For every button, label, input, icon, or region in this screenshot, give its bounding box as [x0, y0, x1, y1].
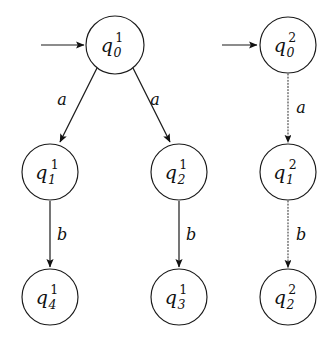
automata-figure: q1^1 --> a q2^1 --> a q4^1 --> b q3^1 --… [0, 0, 330, 337]
state-base: q [36, 286, 48, 308]
edge-label-b: b [296, 225, 306, 244]
state-superscript: 1 [50, 282, 58, 297]
transition-q0-2-to-q1-2: a [288, 74, 306, 142]
state-label: q02 [274, 30, 297, 60]
state-label: q41 [36, 282, 59, 312]
state-subscript: 4 [47, 297, 56, 312]
state-superscript: 1 [51, 157, 59, 172]
state-subscript: 1 [286, 172, 294, 187]
state-label: q11 [35, 157, 59, 187]
state-label: q01 [101, 30, 124, 60]
state-superscript: 2 [288, 282, 296, 297]
transition-q1-2-to-q2-2: b [288, 201, 306, 267]
state-base: q [165, 286, 177, 308]
state-superscript: 2 [289, 157, 297, 172]
state-base: q [35, 161, 47, 183]
edge-label-a: a [296, 98, 306, 117]
state-subscript: 2 [285, 297, 294, 312]
state-superscript: 1 [179, 157, 187, 172]
state-q1-1[interactable]: q11 [22, 144, 78, 200]
state-subscript: 0 [286, 45, 294, 60]
edge-label-b: b [57, 225, 67, 244]
state-superscript: 1 [115, 30, 123, 45]
state-label: q12 [273, 157, 297, 187]
state-base: q [165, 161, 177, 183]
transition-q0-1-to-q2-1: a [133, 68, 170, 142]
state-q4-1[interactable]: q41 [22, 269, 78, 325]
automaton-1: q1^1 --> a q2^1 --> a q4^1 --> b q3^1 --… [22, 16, 207, 325]
state-q1-2[interactable]: q12 [260, 144, 316, 200]
automaton-2: q1^2 (dotted) --> a q2^2 (dotted) --> b … [222, 17, 316, 325]
automata-canvas: q1^1 --> a q2^1 --> a q4^1 --> b q3^1 --… [0, 0, 330, 337]
transition-q1-1-to-q4-1: b [50, 201, 67, 267]
transition-q0-1-to-q1-1: a [57, 68, 97, 142]
state-superscript: 2 [288, 30, 296, 45]
state-subscript: 1 [48, 172, 56, 187]
state-label: q21 [165, 157, 188, 187]
state-q2-1[interactable]: q21 [151, 144, 207, 200]
state-base: q [101, 34, 113, 56]
state-q0-2[interactable]: q02 [260, 17, 316, 73]
state-q0-1[interactable]: q01 [86, 16, 144, 74]
state-subscript: 2 [176, 172, 185, 187]
state-base: q [273, 161, 285, 183]
state-superscript: 1 [179, 282, 187, 297]
state-label: q31 [165, 282, 188, 312]
state-q3-1[interactable]: q31 [151, 269, 207, 325]
state-subscript: 0 [113, 45, 121, 60]
edge-label-a: a [150, 90, 160, 109]
state-subscript: 3 [177, 297, 185, 312]
state-base: q [274, 286, 286, 308]
edge-label-b: b [186, 225, 196, 244]
state-q2-2[interactable]: q22 [260, 269, 316, 325]
edge-label-a: a [57, 90, 67, 109]
transition-q2-1-to-q3-1: b [179, 201, 196, 267]
state-base: q [274, 34, 286, 56]
state-label: q22 [274, 282, 297, 312]
